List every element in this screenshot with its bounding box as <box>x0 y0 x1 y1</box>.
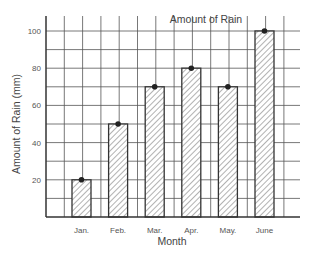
x-tick-label: May. <box>220 226 237 235</box>
x-tick-label: Jan. <box>74 226 89 235</box>
y-tick-label: 40 <box>32 139 41 148</box>
data-point-marker <box>225 84 231 90</box>
data-point-marker <box>189 65 195 71</box>
x-tick-label: Apr. <box>184 226 198 235</box>
y-axis-label: Amount of Rain (mm) <box>10 74 22 174</box>
bar-mar <box>145 84 164 217</box>
y-tick-label: 80 <box>32 64 41 73</box>
bar-apr <box>182 65 201 217</box>
data-point-marker <box>115 121 121 127</box>
chart-title: Amount of Rain <box>170 13 243 25</box>
x-tick-label: June <box>256 226 274 235</box>
x-tick-label: Mar. <box>147 226 163 235</box>
data-point-marker <box>152 84 158 90</box>
y-tick-label: 20 <box>32 176 41 185</box>
x-tick-labels: Jan.Feb.Mar.Apr.May.June <box>74 226 274 235</box>
x-axis-label: Month <box>157 235 186 247</box>
bars <box>72 28 274 217</box>
bar-jan <box>72 177 91 217</box>
bar-feb <box>109 121 128 217</box>
y-tick-label: 100 <box>28 27 42 36</box>
data-point-marker <box>79 177 85 183</box>
bar-may <box>218 84 237 217</box>
x-tick-label: Feb. <box>110 226 126 235</box>
y-tick-labels: 20406080100 <box>28 27 42 185</box>
bar-june <box>255 28 274 217</box>
bar-chart: 20406080100 Jan.Feb.Mar.Apr.May.June Amo… <box>0 0 316 260</box>
data-point-marker <box>262 28 268 34</box>
y-tick-label: 60 <box>32 101 41 110</box>
